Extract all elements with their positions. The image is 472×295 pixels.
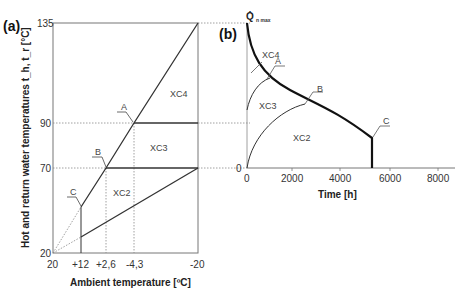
y-tick-70: 70 <box>40 163 52 174</box>
b-region-xc3-label: XC3 <box>259 101 277 111</box>
point-a-label: A <box>121 102 127 112</box>
b-x-tick-4000: 4000 <box>329 173 352 184</box>
panel-b-label: (b) <box>219 26 237 42</box>
b-region-xc2-label: XC2 <box>293 133 311 143</box>
x-axis-label-b: Time [h] <box>318 189 357 200</box>
qmax-label: Q̇ <box>246 11 254 22</box>
y-tick-90: 90 <box>40 118 52 129</box>
region-xc4-label: XC4 <box>170 89 188 99</box>
figure: A B C XC4 XC3 XC2 135 90 70 20 20 +12 +2… <box>0 0 472 295</box>
b-x-tick-0: 0 <box>244 173 250 184</box>
b-point-a-label: A <box>275 56 281 66</box>
y-tick-20: 20 <box>40 248 52 259</box>
b-x-tick-8000: 8000 <box>427 173 450 184</box>
b-point-b-label: B <box>317 84 323 94</box>
b-x-tick-6000: 6000 <box>379 173 402 184</box>
x-axis-label-a: Ambient temperature [ºC] <box>70 277 191 288</box>
x-tick-minus20: -20 <box>190 259 205 270</box>
x-tick-2-6: +2,6 <box>96 259 116 270</box>
x-tick-20: 20 <box>47 259 59 270</box>
b-y-tick-0: 0 <box>236 163 242 174</box>
x-tick-4-3: -4,3 <box>126 259 144 270</box>
panel-a: A B C XC4 XC3 XC2 135 90 70 20 20 +12 +2… <box>3 18 250 288</box>
panel-b: XC4 A XC3 B XC2 C Q̇ n max 0 0 2000 4000… <box>219 11 455 200</box>
b-x-tick-2000: 2000 <box>281 173 304 184</box>
region-xc3-label: XC3 <box>150 143 168 153</box>
y-axis-label-a: Hot and return water temperatures t_h, t… <box>20 27 31 248</box>
y-tick-135: 135 <box>37 18 54 29</box>
qmax-subscript: n max <box>256 17 271 23</box>
b-point-c-label: C <box>383 116 390 126</box>
panel-a-label: (a) <box>3 18 20 34</box>
x-tick-12: +12 <box>72 259 89 270</box>
region-xc2-label: XC2 <box>113 188 131 198</box>
point-b-label: B <box>95 147 101 157</box>
point-c-label: C <box>70 187 77 197</box>
